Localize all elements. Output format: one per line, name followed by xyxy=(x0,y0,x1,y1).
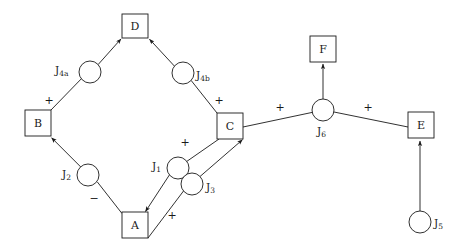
junction-label-j5: J5 xyxy=(433,217,443,231)
edge-c-to-j1 xyxy=(187,139,219,161)
junction-label-j4a: J4a xyxy=(54,64,69,78)
junction-j4b[interactable] xyxy=(172,62,194,84)
junction-j4a[interactable] xyxy=(79,61,101,83)
junctions-layer xyxy=(77,61,431,233)
edge-j1-to-a xyxy=(146,175,170,212)
sign-label-j2-a: − xyxy=(89,192,98,205)
junction-labels-layer: J4a J4b J2 J1 J3 J6 J5 xyxy=(54,64,443,231)
junction-label-j6: J6 xyxy=(316,125,326,139)
sign-label-c-j4b: + xyxy=(214,94,223,107)
node-box-d-label: D xyxy=(131,20,140,33)
edge-j6-to-e xyxy=(334,112,408,127)
junction-j5[interactable] xyxy=(409,211,431,233)
sign-label-c-j1: + xyxy=(180,136,189,149)
junction-label-j2: J2 xyxy=(61,168,71,182)
edge-c-to-j6 xyxy=(243,112,312,127)
junction-label-j1: J1 xyxy=(151,160,161,174)
sign-label-b-j4a: + xyxy=(44,94,53,107)
network-diagram: D B C A F E J4a J4b J2 J1 xyxy=(0,0,470,251)
diagram-canvas: D B C A F E J4a J4b J2 J1 xyxy=(0,0,470,251)
sign-label-c-j6: + xyxy=(275,101,284,114)
edge-a-to-j2 xyxy=(97,182,122,214)
boxes-layer: D B C A F E xyxy=(25,14,434,238)
node-box-b-label: B xyxy=(34,117,42,130)
sign-label-a-j3: + xyxy=(167,209,176,222)
junction-j2[interactable] xyxy=(77,164,99,186)
junction-j3[interactable] xyxy=(181,173,203,195)
edge-c-to-j4b xyxy=(191,80,217,113)
node-box-a-label: A xyxy=(130,219,140,232)
edge-a-to-j3 xyxy=(148,191,184,238)
edge-j3-to-c xyxy=(200,140,243,177)
node-box-c-label: C xyxy=(226,120,234,133)
sign-label-j6-e: + xyxy=(363,101,372,114)
node-box-f-label: F xyxy=(319,43,327,56)
edge-j2-to-b xyxy=(52,138,82,168)
node-box-e-label: E xyxy=(417,119,425,132)
junction-j6[interactable] xyxy=(312,99,334,121)
edge-j4a-to-d xyxy=(98,39,121,65)
edge-j4b-to-d xyxy=(150,39,175,66)
junction-label-j4b: J4b xyxy=(195,69,210,83)
edge-b-to-j4a xyxy=(51,79,82,111)
junction-label-j3: J3 xyxy=(205,181,215,195)
